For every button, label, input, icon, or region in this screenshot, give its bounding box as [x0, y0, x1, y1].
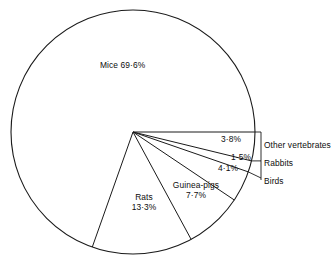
slice-name-rabbits: Rabbits	[264, 158, 293, 168]
slice-name-other-vertebrates: Other vertebrates	[264, 140, 331, 150]
slice-label-guinea-pigs-value: 7·7%	[160, 190, 232, 200]
slice-label-rats-value: 13·3%	[117, 202, 171, 212]
slice-value-rabbits: 1·5%	[231, 152, 251, 162]
pie-chart-graphic	[0, 0, 336, 261]
slice-value-birds: 4·1%	[218, 163, 238, 173]
slice-label-guinea-pigs: Guinea-pigs 7·7%	[160, 180, 232, 200]
slice-name-birds: Birds	[264, 176, 284, 186]
slice-label-guinea-pigs-name: Guinea-pigs	[160, 180, 232, 190]
slice-label-mice: Mice 69·6%	[100, 60, 145, 70]
leader-line-birds	[248, 172, 261, 178]
pie-chart-figure: Mice 69·6% Rats 13·3% Guinea-pigs 7·7% 3…	[0, 0, 336, 261]
slice-value-other-vertebrates: 3·8%	[221, 134, 241, 144]
